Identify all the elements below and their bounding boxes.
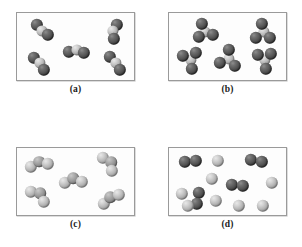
atom-dark [229,60,241,72]
atom-light [38,196,50,208]
atom-light [266,177,278,189]
atom-dark [190,155,202,167]
atom-light [76,176,88,188]
atom-light [212,155,224,167]
panel-frame-a [16,12,135,81]
atom-dark [250,32,262,44]
atom-dark [256,156,268,168]
atom-light [176,188,188,200]
panel-caption-d: (d) [168,219,287,229]
atom-dark [237,180,249,192]
panel-a [16,12,135,81]
atom-dark [193,31,205,43]
atom-dark [260,63,272,75]
atom-dark [190,47,202,59]
panel-caption-b: (b) [168,84,287,94]
atom-dark [264,32,276,44]
panel-caption-c: (c) [16,219,135,229]
atom-light [113,189,125,201]
panel-frame-d [168,147,287,216]
atom-dark [78,47,90,59]
atom-light [42,158,54,170]
panel-b [168,12,287,81]
panel-c [16,147,135,216]
atom-dark [38,64,50,76]
atom-dark [186,63,198,75]
atom-dark [114,63,126,75]
atom-light [106,165,118,177]
atom-light [210,195,222,207]
atom-light [257,200,269,212]
panel-d [168,147,287,216]
atom-light [206,173,218,185]
panel-caption-a: (a) [16,84,135,94]
atom-dark [265,48,277,60]
panel-frame-b [168,12,287,81]
atom-dark [223,44,235,56]
panel-frame-c [16,147,135,216]
atom-light [233,200,245,212]
atom-dark [207,29,219,41]
atom-light [182,200,194,212]
molecular-models-figure: (a)(b)(c)(d) [0,0,302,247]
atom-dark [108,32,120,44]
atom-dark [42,29,54,41]
atom-dark [214,57,226,69]
